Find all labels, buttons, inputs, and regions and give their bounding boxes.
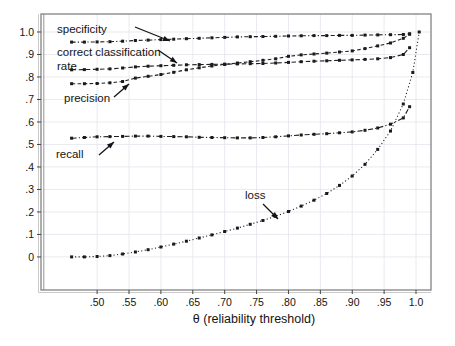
data-point-marker — [147, 65, 150, 68]
data-point-marker — [389, 33, 392, 36]
data-point-marker — [364, 58, 367, 61]
data-point-marker — [402, 103, 405, 106]
data-point-marker — [351, 130, 354, 133]
data-point-marker — [134, 251, 137, 254]
data-point-marker — [313, 34, 316, 37]
data-point-marker — [287, 55, 290, 58]
data-point-marker — [96, 68, 99, 71]
data-point-marker — [83, 41, 86, 44]
y-tick-label: .7 — [25, 93, 34, 105]
data-point-marker — [83, 136, 86, 139]
data-point-marker — [198, 66, 201, 69]
data-point-marker — [325, 52, 328, 55]
data-point-marker — [376, 44, 379, 47]
data-point-marker — [121, 253, 124, 256]
data-point-marker — [261, 35, 264, 38]
x-tick-label: .65 — [185, 296, 200, 308]
data-point-marker — [261, 219, 264, 222]
data-point-marker — [108, 135, 111, 138]
data-point-marker — [121, 40, 124, 43]
data-point-marker — [313, 199, 316, 202]
data-point-marker — [338, 184, 341, 187]
y-tick-label: .5 — [25, 138, 34, 150]
x-tick-label: .50 — [90, 296, 105, 308]
data-point-marker — [300, 134, 303, 137]
data-point-marker — [121, 80, 124, 83]
data-point-marker — [96, 82, 99, 85]
data-point-marker — [261, 136, 264, 139]
data-point-marker — [338, 51, 341, 54]
data-point-marker — [236, 62, 239, 65]
data-point-marker — [274, 62, 277, 65]
data-point-marker — [185, 240, 188, 243]
line-chart: .50.55.60.65.70.75.80.85.90.951.00.1.2.3… — [0, 0, 455, 346]
data-point-marker — [121, 67, 124, 70]
x-tick-label: .75 — [249, 296, 264, 308]
data-point-marker — [261, 59, 264, 62]
data-point-marker — [287, 210, 290, 213]
data-point-marker — [351, 49, 354, 52]
data-point-marker — [338, 34, 341, 37]
data-point-marker — [274, 35, 277, 38]
data-point-marker — [198, 136, 201, 139]
data-point-marker — [338, 59, 341, 62]
data-point-marker — [376, 33, 379, 36]
data-point-marker — [376, 57, 379, 60]
data-point-marker — [172, 135, 175, 138]
data-point-marker — [108, 67, 111, 70]
data-point-marker — [121, 135, 124, 138]
y-tick-label: 0 — [28, 251, 34, 263]
data-point-marker — [70, 255, 73, 258]
data-point-marker — [249, 35, 252, 38]
data-point-marker — [210, 36, 213, 39]
data-point-marker — [249, 60, 252, 63]
data-point-marker — [185, 68, 188, 71]
data-point-marker — [364, 34, 367, 37]
data-point-marker — [134, 39, 137, 42]
data-point-marker — [402, 33, 405, 36]
data-point-marker — [287, 35, 290, 38]
data-point-marker — [147, 39, 150, 42]
data-point-marker — [83, 255, 86, 258]
data-point-marker — [389, 130, 392, 133]
data-point-marker — [185, 135, 188, 138]
annotation-label-precision: precision — [64, 92, 110, 104]
data-point-marker — [223, 230, 226, 233]
data-point-marker — [70, 82, 73, 85]
data-point-marker — [147, 248, 150, 251]
annotation-label-rate: rate — [57, 60, 77, 72]
data-point-marker — [134, 65, 137, 68]
data-point-marker — [376, 148, 379, 151]
data-point-marker — [223, 63, 226, 66]
data-point-marker — [402, 53, 405, 56]
data-point-marker — [108, 81, 111, 84]
y-tick-label: .1 — [25, 228, 34, 240]
data-point-marker — [96, 255, 99, 258]
x-tick-label: .80 — [281, 296, 296, 308]
data-point-marker — [198, 37, 201, 40]
data-point-marker — [313, 133, 316, 136]
data-point-marker — [134, 77, 137, 80]
data-point-marker — [274, 135, 277, 138]
data-point-marker — [325, 132, 328, 135]
data-point-marker — [389, 56, 392, 59]
data-point-marker — [236, 35, 239, 38]
data-point-marker — [351, 58, 354, 61]
data-point-marker — [364, 163, 367, 166]
data-point-marker — [300, 53, 303, 56]
data-point-marker — [134, 135, 137, 138]
data-point-marker — [210, 136, 213, 139]
data-point-marker — [376, 127, 379, 130]
x-tick-label: .55 — [122, 296, 137, 308]
data-point-marker — [325, 59, 328, 62]
data-point-marker — [351, 175, 354, 178]
data-point-marker — [185, 63, 188, 66]
data-point-marker — [389, 123, 392, 126]
x-tick-label: .95 — [377, 296, 392, 308]
data-point-marker — [274, 57, 277, 60]
data-point-marker — [402, 116, 405, 119]
data-point-marker — [172, 71, 175, 74]
data-point-marker — [159, 64, 162, 67]
data-point-marker — [210, 233, 213, 236]
data-point-marker — [159, 73, 162, 76]
